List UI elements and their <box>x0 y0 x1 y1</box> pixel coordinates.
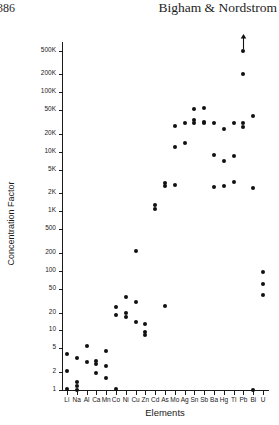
x-axis-tick-mark <box>126 391 127 395</box>
data-point <box>192 107 196 111</box>
y-axis-tick-label: 200 <box>45 248 56 255</box>
data-point <box>241 72 245 76</box>
data-point <box>202 121 206 125</box>
y-axis-title: Concentration Factor <box>4 22 18 425</box>
data-point <box>124 295 128 299</box>
data-point <box>173 124 177 128</box>
data-point <box>104 376 108 380</box>
data-point <box>212 185 216 189</box>
x-axis-tick-mark <box>96 391 97 395</box>
x-axis-tick-mark <box>234 391 235 395</box>
x-axis-tick-mark <box>145 391 146 395</box>
x-axis-tick-mark <box>155 391 156 395</box>
x-axis-tick-label: Mo <box>170 396 179 403</box>
page-number: 386 <box>0 1 15 16</box>
y-axis-tick-label: 2 <box>52 367 56 374</box>
data-point <box>261 293 265 297</box>
x-axis-tick-label: Al <box>84 396 90 403</box>
x-axis-tick-mark <box>185 391 186 395</box>
data-point <box>241 125 245 129</box>
data-point <box>222 127 226 131</box>
x-axis-tick-label: As <box>161 396 169 403</box>
data-point <box>104 364 108 368</box>
x-axis-tick-mark <box>253 391 254 395</box>
data-point <box>212 121 216 125</box>
x-axis-tick-mark <box>194 391 195 395</box>
x-axis-tick-label: Sb <box>200 396 208 403</box>
x-axis-tick-label: U <box>261 396 266 403</box>
data-point <box>212 153 216 157</box>
x-axis-tick-mark <box>243 391 244 395</box>
y-axis-tick-label: 20K <box>44 129 56 136</box>
data-point <box>153 207 157 211</box>
plot-area <box>62 42 268 390</box>
y-axis-tick-label: 10 <box>49 325 56 332</box>
x-axis-tick-mark <box>67 391 68 395</box>
y-axis-tick-label: 500K <box>41 46 56 53</box>
x-axis-tick-mark <box>165 391 166 395</box>
x-axis-tick-mark <box>175 391 176 395</box>
data-point <box>163 304 167 308</box>
data-point <box>65 369 69 373</box>
data-point <box>183 141 187 145</box>
data-point <box>104 349 108 353</box>
x-axis-title: Elements <box>62 407 268 418</box>
y-axis-tick-label: 50K <box>44 105 56 112</box>
y-axis-tick-label: 1 <box>52 385 56 392</box>
x-axis-tick-mark <box>136 391 137 395</box>
x-axis-tick-label: Hg <box>220 396 228 403</box>
data-point <box>173 183 177 187</box>
x-axis-tick-label: Pb <box>239 396 247 403</box>
data-point <box>85 344 89 348</box>
y-axis-tick-label: 50 <box>49 284 56 291</box>
data-point <box>114 313 118 317</box>
scatter-chart-figure: Concentration Factor 500K200K100K50K20K1… <box>0 22 279 425</box>
y-axis-tick-label: 100K <box>41 87 56 94</box>
running-title: Bigham & Nordstrom <box>159 0 278 16</box>
data-point <box>232 180 236 184</box>
y-axis-title-container: Concentration Factor <box>4 22 18 425</box>
off-scale-up-arrow-icon <box>239 34 248 50</box>
data-point <box>65 352 69 356</box>
data-point <box>134 300 138 304</box>
x-axis-tick-mark <box>87 391 88 395</box>
data-point <box>134 320 138 324</box>
x-axis-tick-label: Bi <box>250 396 256 403</box>
data-point <box>153 203 157 207</box>
x-axis-tick-mark <box>224 391 225 395</box>
y-axis-tick-label: 5 <box>52 343 56 350</box>
x-axis-tick-mark <box>263 391 264 395</box>
x-axis-tick-mark <box>77 391 78 395</box>
x-axis-tick-mark <box>204 391 205 395</box>
data-point <box>143 322 147 326</box>
data-point <box>124 315 128 319</box>
data-point <box>114 305 118 309</box>
y-axis-tick-label: 20 <box>49 308 56 315</box>
data-point <box>251 186 255 190</box>
x-axis-tick-label: Cu <box>131 396 139 403</box>
data-point <box>85 360 89 364</box>
x-axis-tick-mark <box>106 391 107 395</box>
y-axis-tick-label: 200K <box>41 69 56 76</box>
data-point <box>261 270 265 274</box>
data-point <box>232 121 236 125</box>
data-point <box>94 371 98 375</box>
y-axis-tick-label: 10K <box>44 147 56 154</box>
data-point <box>183 121 187 125</box>
data-point <box>75 356 79 360</box>
data-point <box>251 114 255 118</box>
data-point <box>94 362 98 366</box>
data-point <box>173 145 177 149</box>
x-axis-tick-label: Cd <box>151 396 159 403</box>
x-axis-tick-mark <box>116 391 117 395</box>
data-point <box>124 311 128 315</box>
x-axis-tick-label: Ca <box>92 396 100 403</box>
data-point <box>163 184 167 188</box>
data-point <box>192 121 196 125</box>
x-axis-tick-mark <box>214 391 215 395</box>
y-axis-tick-label: 1K <box>48 206 56 213</box>
data-point <box>143 333 147 337</box>
y-axis-tick-label: 2K <box>48 188 56 195</box>
x-axis-tick-label: Li <box>64 396 69 403</box>
y-axis-tick-label: 500 <box>45 224 56 231</box>
